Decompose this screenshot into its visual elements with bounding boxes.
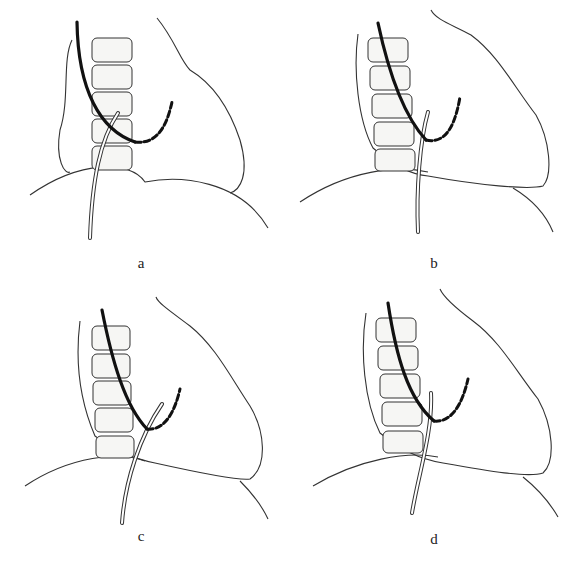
panel-a-illustration xyxy=(0,0,288,281)
panel-d-illustration xyxy=(288,281,576,563)
vertebrae xyxy=(92,326,134,458)
panel-c: c xyxy=(0,281,288,562)
body-contour xyxy=(25,456,268,519)
panel-d: d xyxy=(288,281,576,562)
panel-b: b xyxy=(288,0,576,281)
body-contour xyxy=(313,455,558,517)
panel-label-c: c xyxy=(131,528,151,545)
catheter-tip xyxy=(135,102,172,142)
catheter-tip xyxy=(434,379,468,421)
panel-label-b: b xyxy=(424,255,444,272)
panel-c-illustration xyxy=(0,281,288,563)
vertebrae xyxy=(376,318,423,453)
panel-a: a xyxy=(0,0,288,281)
panel-b-illustration xyxy=(288,0,576,281)
catheter-tip xyxy=(426,97,460,141)
vertebrae xyxy=(92,38,132,170)
body-contour xyxy=(300,169,553,232)
panel-label-d: d xyxy=(424,531,444,548)
body-contour xyxy=(30,167,268,228)
panel-label-a: a xyxy=(131,255,151,272)
vertebrae xyxy=(368,38,415,171)
organ-outline xyxy=(59,18,245,193)
